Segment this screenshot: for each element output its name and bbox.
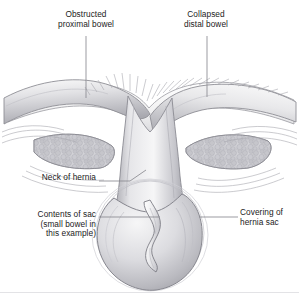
label-contents-of-sac: Contents of sac (small bowel in this exa…	[2, 210, 96, 239]
fat-pad-right	[182, 126, 276, 176]
fat-pad-left	[30, 126, 120, 176]
label-covering-of-hernia-sac: Covering of hernia sac	[240, 208, 299, 227]
figure-baseline-rule	[0, 292, 299, 293]
label-neck-of-hernia: Neck of hernia	[4, 173, 96, 183]
label-collapsed-distal-bowel: Collapsed distal bowel	[158, 10, 254, 29]
label-obstructed-proximal-bowel: Obstructed proximal bowel	[38, 10, 134, 29]
anatomy-artwork	[0, 0, 299, 299]
hernia-illustration-figure: Obstructed proximal bowel Collapsed dist…	[0, 0, 299, 299]
